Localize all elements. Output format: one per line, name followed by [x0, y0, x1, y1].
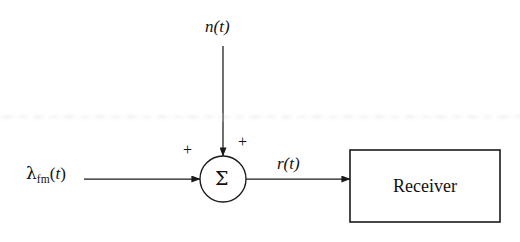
plus-sign-signal-branch: + — [183, 142, 192, 158]
block-diagram-figure: n(t) λfm(t) + + Σ r(t) Receiver — [0, 0, 520, 242]
arg-close-paren: ) — [60, 164, 66, 183]
received-signal-label: r(t) — [277, 155, 300, 172]
lambda-symbol: λ — [26, 163, 37, 183]
receiver-block-label: Receiver — [350, 150, 500, 222]
lambda-subscript: fm — [37, 173, 50, 185]
plus-sign-noise-branch: + — [238, 134, 247, 150]
summation-sigma-symbol: Σ — [215, 169, 228, 188]
signal-input-label: λfm(t) — [26, 165, 66, 185]
noise-input-label: n(t) — [205, 18, 230, 35]
